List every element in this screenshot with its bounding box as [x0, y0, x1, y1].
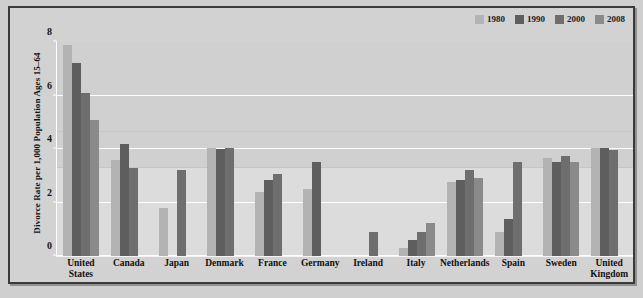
bar-spain-1990 [504, 219, 513, 256]
bar-united-kingdom-1990 [600, 148, 609, 256]
x-label-ireland: Ireland [344, 258, 392, 280]
chart-frame: 1980199020002008 Divorce Rate per 1,000 … [8, 6, 635, 284]
bar-group-sweden [537, 42, 585, 256]
bar-group-italy [393, 42, 441, 256]
x-axis-line [56, 256, 633, 257]
bar-canada-1990 [120, 144, 129, 256]
legend-label: 1990 [527, 14, 545, 24]
y-tick-label-0: 0 [47, 240, 52, 251]
bar-groups [57, 42, 633, 256]
bar-italy-1980 [399, 248, 408, 256]
bar-ireland-2000 [369, 232, 378, 256]
bar-united-states-1980 [63, 45, 72, 256]
bar-netherlands-2008 [474, 178, 483, 256]
bar-group-netherlands [441, 42, 489, 256]
bar-denmark-2000 [225, 148, 234, 256]
y-tick-mark-6 [53, 94, 57, 95]
bar-japan-1980 [159, 208, 168, 256]
x-label-netherlands: Netherlands [440, 258, 490, 280]
y-tick-mark-8 [53, 41, 57, 42]
bar-sweden-1990 [552, 162, 561, 256]
x-label-germany: Germany [296, 258, 344, 280]
bar-france-1990 [264, 180, 273, 256]
bar-france-1980 [255, 192, 264, 256]
x-label-spain: Spain [490, 258, 538, 280]
y-tick-label-4: 4 [47, 133, 52, 144]
legend-swatch-icon [555, 15, 564, 24]
bar-group-united-kingdom [585, 42, 633, 256]
x-label-italy: Italy [392, 258, 440, 280]
x-axis-labels: UnitedStatesCanadaJapanDenmarkFranceGerm… [57, 258, 633, 280]
y-tick-label-8: 8 [47, 26, 52, 37]
bar-spain-2000 [513, 162, 522, 256]
legend-swatch-icon [475, 15, 484, 24]
bar-united-kingdom-1980 [591, 148, 600, 256]
bar-denmark-1980 [207, 148, 216, 256]
bar-italy-2000 [417, 232, 426, 256]
bar-united-states-1990 [72, 63, 81, 256]
legend-swatch-icon [595, 15, 604, 24]
y-tick-label-6: 6 [47, 79, 52, 90]
legend-item-1980: 1980 [475, 14, 505, 24]
plot-area [57, 42, 633, 256]
y-tick-mark-2 [53, 201, 57, 202]
y-tick-label-2: 2 [47, 186, 52, 197]
x-label-sweden: Sweden [537, 258, 585, 280]
bar-united-kingdom-2000 [609, 150, 618, 256]
legend-item-2000: 2000 [555, 14, 585, 24]
bar-japan-2000 [177, 170, 186, 256]
bar-germany-1990 [312, 162, 321, 256]
y-axis-title: Divorce Rate per 1,000 Population Ages 1… [32, 38, 46, 248]
bar-canada-2000 [129, 168, 138, 256]
bar-netherlands-2000 [465, 170, 474, 256]
legend-label: 2000 [567, 14, 585, 24]
bar-group-united-states [57, 42, 105, 256]
bar-netherlands-1980 [447, 182, 456, 256]
bar-group-germany [297, 42, 345, 256]
bar-france-2000 [273, 174, 282, 256]
bar-denmark-1990 [216, 149, 225, 256]
x-label-japan: Japan [153, 258, 201, 280]
bar-italy-1990 [408, 240, 417, 256]
chart-legend: 1980199020002008 [475, 14, 625, 24]
chart-figure: 1980199020002008 Divorce Rate per 1,000 … [0, 0, 643, 298]
y-tick-mark-4 [53, 148, 57, 149]
x-label-united-states: UnitedStates [57, 258, 105, 280]
bar-sweden-2008 [570, 162, 579, 256]
bar-united-states-2000 [81, 93, 90, 256]
bar-group-france [249, 42, 297, 256]
bar-group-denmark [201, 42, 249, 256]
y-axis-line [56, 42, 57, 256]
legend-label: 2008 [607, 14, 625, 24]
bar-group-japan [153, 42, 201, 256]
bar-sweden-1980 [543, 158, 552, 256]
bar-netherlands-1990 [456, 180, 465, 256]
legend-label: 1980 [487, 14, 505, 24]
bar-canada-1980 [111, 160, 120, 256]
legend-swatch-icon [515, 15, 524, 24]
x-label-france: France [248, 258, 296, 280]
bar-united-states-2008 [90, 120, 99, 256]
bar-group-canada [105, 42, 153, 256]
bar-spain-1980 [495, 232, 504, 256]
bar-germany-1980 [303, 189, 312, 256]
x-label-denmark: Denmark [201, 258, 249, 280]
bar-sweden-2000 [561, 156, 570, 256]
legend-item-2008: 2008 [595, 14, 625, 24]
bar-italy-2008 [426, 223, 435, 256]
legend-item-1990: 1990 [515, 14, 545, 24]
bar-group-ireland [345, 42, 393, 256]
x-label-canada: Canada [105, 258, 153, 280]
bar-group-spain [489, 42, 537, 256]
plot-area-wrapper: 02468 [57, 42, 633, 256]
x-label-united-kingdom: UnitedKingdom [585, 258, 633, 280]
y-tick-mark-0 [53, 255, 57, 256]
